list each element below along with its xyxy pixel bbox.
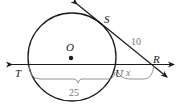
measure-tu: 25 bbox=[69, 87, 79, 98]
label-r: R bbox=[152, 53, 160, 65]
measure-ur: x bbox=[125, 67, 131, 78]
label-t: T bbox=[15, 67, 22, 79]
label-s: S bbox=[104, 13, 110, 25]
measure-rs: 10 bbox=[131, 36, 141, 47]
label-u: U bbox=[115, 67, 124, 79]
label-o: O bbox=[66, 41, 74, 53]
geometry-diagram: S O R T U 10 25 x bbox=[0, 0, 185, 106]
center-point bbox=[69, 56, 73, 60]
brace-tu bbox=[29, 66, 115, 83]
